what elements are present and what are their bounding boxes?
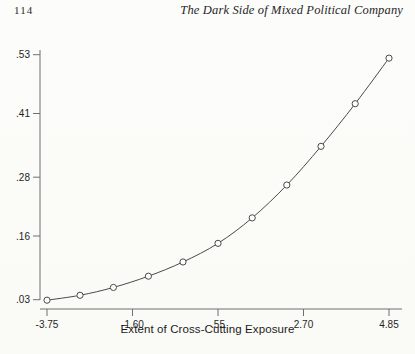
page-number: 114 (14, 4, 33, 16)
data-point-marker (180, 259, 186, 265)
y-tick-label: .16 (16, 231, 30, 242)
data-point-marker (249, 215, 255, 221)
series-markers (44, 55, 392, 303)
y-tick-label: .03 (16, 294, 30, 305)
y-tick-marks (33, 55, 40, 300)
data-point-marker (215, 240, 221, 246)
y-tick-label: .53 (16, 49, 30, 60)
y-tick-labels: .03.16.28.41.53 (16, 49, 30, 305)
y-axis: .03.16.28.41.53 (16, 49, 40, 305)
journal-page: 114 The Dark Side of Mixed Political Com… (0, 0, 415, 354)
data-point-marker (352, 101, 358, 107)
data-point-marker (145, 273, 151, 279)
chart-plot-area: .03.16.28.41.53 -3.75-1.60.552.704.85 (0, 26, 415, 354)
y-tick-label: .28 (16, 172, 30, 183)
data-point-marker (77, 292, 83, 298)
data-point-marker (318, 143, 324, 149)
x-tick-marks (47, 309, 389, 316)
data-point-marker (284, 182, 290, 188)
data-point-marker (386, 55, 392, 61)
x-axis-title: Extent of Cross-Cutting Exposure (0, 323, 415, 335)
series-line-predicted-value (47, 58, 389, 300)
running-title: The Dark Side of Mixed Political Company (180, 3, 403, 18)
figure-chart: .03.16.28.41.53 -3.75-1.60.552.704.85 Ex… (0, 26, 415, 354)
running-head: 114 The Dark Side of Mixed Political Com… (0, 0, 415, 26)
data-point-marker (110, 284, 116, 290)
data-point-marker (44, 297, 50, 303)
y-tick-label: .41 (16, 108, 30, 119)
